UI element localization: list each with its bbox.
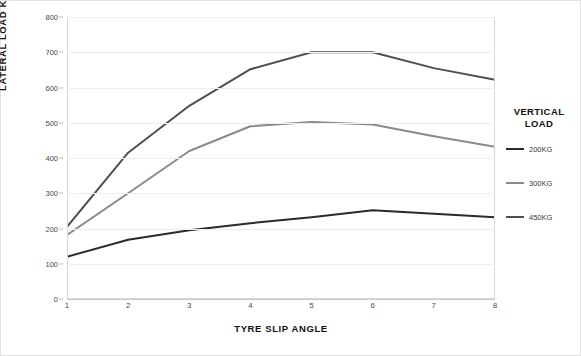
gridline-600 [67, 88, 495, 89]
legend: VERTICAL LOAD 200KG300KG450KG [506, 106, 578, 246]
gridline-200 [67, 229, 495, 230]
y-tick-label-100: 100 [45, 259, 58, 268]
x-tick-label-3: 3 [187, 301, 191, 310]
legend-swatch-300KG [506, 182, 524, 184]
legend-label-300KG: 300KG [529, 179, 552, 188]
gridline-0 [67, 299, 495, 300]
y-tick-mark-200 [59, 228, 63, 229]
x-tick-label-5: 5 [309, 301, 313, 310]
legend-label-200KG: 200KG [529, 145, 552, 154]
x-tick-label-4: 4 [248, 301, 252, 310]
legend-title-line2: LOAD [525, 118, 554, 129]
y-tick-mark-100 [59, 263, 63, 264]
y-tick-mark-500 [59, 122, 63, 123]
legend-item-200KG[interactable]: 200KG [506, 144, 578, 154]
legend-title: VERTICAL LOAD [506, 106, 572, 130]
y-tick-mark-800 [59, 17, 63, 18]
plot-area [67, 17, 495, 299]
x-tick-label-7: 7 [432, 301, 436, 310]
x-tick-label-6: 6 [370, 301, 374, 310]
y-tick-mark-0 [59, 299, 63, 300]
gridline-500 [67, 123, 495, 124]
gridline-100 [67, 264, 495, 265]
y-axis-title: LATERAL LOAD KG [0, 0, 15, 91]
y-tick-label-500: 500 [45, 118, 58, 127]
y-tick-label-400: 400 [45, 154, 58, 163]
x-axis-title: TYRE SLIP ANGLE [67, 323, 495, 334]
x-tick-label-8: 8 [493, 301, 497, 310]
gridline-800 [67, 17, 495, 18]
y-tick-mark-600 [59, 87, 63, 88]
legend-label-450KG: 450KG [529, 213, 552, 222]
y-tick-mark-400 [59, 158, 63, 159]
y-tick-mark-300 [59, 193, 63, 194]
y-tick-label-300: 300 [45, 189, 58, 198]
legend-item-300KG[interactable]: 300KG [506, 178, 578, 188]
legend-items: 200KG300KG450KG [506, 144, 578, 222]
x-tick-label-1: 1 [65, 301, 69, 310]
legend-swatch-450KG [506, 216, 524, 218]
legend-title-line1: VERTICAL [514, 106, 565, 117]
y-tick-label-800: 800 [45, 13, 58, 22]
y-tick-label-700: 700 [45, 48, 58, 57]
x-tick-label-2: 2 [126, 301, 130, 310]
y-tick-label-0: 0 [54, 295, 58, 304]
gridline-400 [67, 158, 495, 159]
y-tick-label-600: 600 [45, 83, 58, 92]
legend-swatch-200KG [506, 148, 524, 150]
y-tick-mark-700 [59, 52, 63, 53]
gridline-700 [67, 52, 495, 53]
y-tick-label-200: 200 [45, 224, 58, 233]
gridline-300 [67, 193, 495, 194]
legend-item-450KG[interactable]: 450KG [506, 212, 578, 222]
x-axis-tick-labels: 12345678 [67, 301, 495, 317]
chart-page-frame: 0100200300400500600700800 LATERAL LOAD K… [0, 0, 581, 356]
